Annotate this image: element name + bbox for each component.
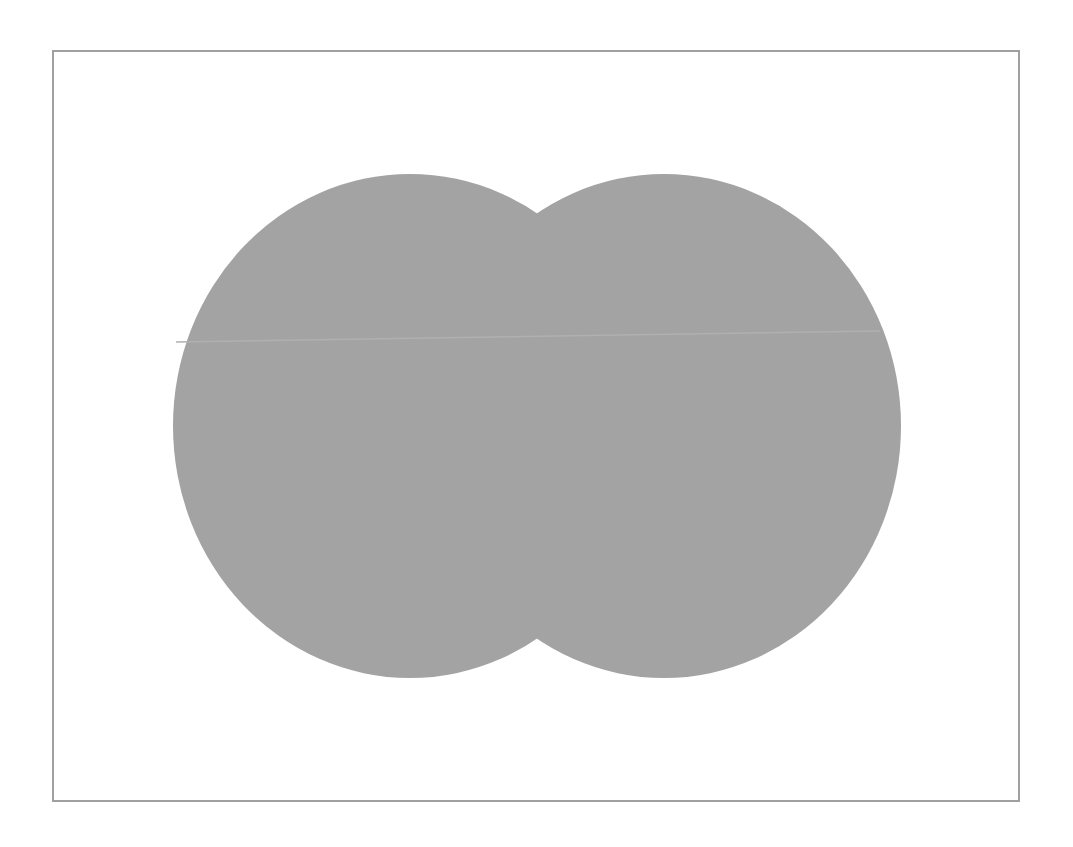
right-circle: [427, 174, 901, 678]
overlapping-circles-drawing: [0, 0, 1073, 847]
